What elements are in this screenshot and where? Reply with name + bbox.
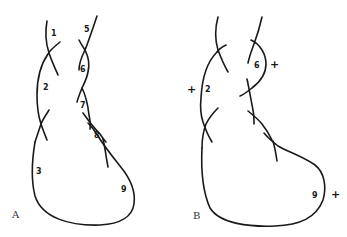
plus-sign-6: + bbox=[270, 58, 279, 71]
region-number-3: 3 bbox=[36, 167, 42, 176]
panel-label-a: A bbox=[11, 209, 20, 220]
panel-b-left-arc-2 bbox=[201, 52, 217, 142]
panel-label-b: B bbox=[193, 210, 200, 221]
region-number-9-b: 9 bbox=[312, 191, 318, 200]
region-number-6: 6 bbox=[80, 65, 86, 74]
knot-diagram-figure: 1 2 3 5 6 7 8 9 A 6 2 9 + + + bbox=[0, 0, 347, 237]
panel-b: 6 2 9 + + + B bbox=[187, 17, 340, 226]
panel-b-diagonal bbox=[248, 111, 272, 140]
panel-a-left-arc-2 bbox=[37, 54, 48, 140]
region-number-8: 8 bbox=[94, 131, 100, 140]
region-number-7: 7 bbox=[80, 101, 86, 110]
panel-a-crossing-slash-1 bbox=[48, 42, 60, 54]
region-number-2: 2 bbox=[43, 83, 49, 92]
region-number-9: 9 bbox=[121, 185, 127, 194]
plus-sign-2: + bbox=[187, 83, 196, 96]
region-number-2-b: 2 bbox=[205, 85, 211, 94]
panel-b-main-loop bbox=[202, 133, 325, 226]
region-number-1: 1 bbox=[51, 29, 57, 38]
panel-a-crossing-slash-8 bbox=[103, 139, 108, 167]
panel-a-main-loop bbox=[32, 123, 134, 225]
panel-b-crossing-slash-2 bbox=[202, 108, 218, 148]
panel-b-strand-lower bbox=[247, 79, 254, 124]
panel-b-right-strand-upper bbox=[248, 17, 262, 63]
region-number-5: 5 bbox=[84, 25, 90, 34]
plus-sign-9: + bbox=[331, 188, 340, 201]
region-number-6-b: 6 bbox=[254, 61, 260, 70]
panel-a: 1 2 3 5 6 7 8 9 A bbox=[11, 16, 134, 225]
